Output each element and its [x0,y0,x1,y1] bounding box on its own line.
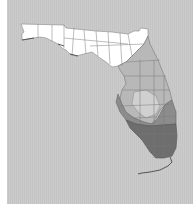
florida-keys [138,157,172,174]
zone-south [126,120,177,158]
florida-map [0,0,193,204]
